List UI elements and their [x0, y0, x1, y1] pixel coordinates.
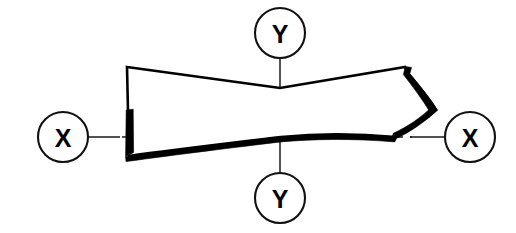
axis-marker-x-right-label: X — [462, 124, 479, 152]
axis-marker-x-left-label: X — [55, 124, 72, 152]
axis-marker-y-top[interactable]: Y — [255, 8, 305, 58]
axis-marker-y-bottom-label: Y — [272, 185, 289, 213]
diagram-canvas: Y Y X X — [0, 0, 516, 233]
axis-marker-x-right[interactable]: X — [445, 112, 495, 162]
section-bottom-heavy-edge-right — [281, 134, 396, 142]
axis-marker-x-left[interactable]: X — [38, 112, 88, 162]
axis-marker-y-bottom[interactable]: Y — [255, 173, 305, 223]
technical-diagram: Y Y X X — [0, 0, 516, 233]
section-left-heavy-edge — [126, 109, 134, 156]
section-outline-path — [127, 67, 436, 156]
axis-marker-y-top-label: Y — [272, 20, 289, 48]
